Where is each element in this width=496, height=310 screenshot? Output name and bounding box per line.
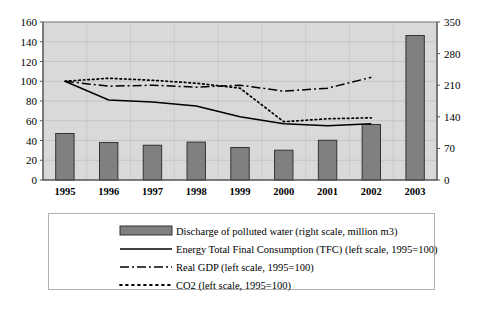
legend-swatch-bar <box>120 226 172 235</box>
left-tick-label: 100 <box>21 75 38 87</box>
left-axis-ticks: 020406080100120140160 <box>21 16 44 186</box>
x-axis-label: 1997 <box>142 186 163 197</box>
right-axis-ticks: 070140210280350 <box>437 16 461 186</box>
x-axis-label: 2003 <box>405 186 426 197</box>
right-tick-label: 0 <box>444 174 450 186</box>
bar <box>318 140 336 180</box>
chart-figure: 020406080100120140160 070140210280350 19… <box>0 0 496 310</box>
bar <box>99 143 117 180</box>
bar <box>231 147 249 180</box>
bar <box>56 134 74 180</box>
bar <box>143 145 161 180</box>
right-tick-label: 350 <box>444 16 461 28</box>
left-tick-label: 40 <box>26 135 38 147</box>
right-tick-label: 280 <box>444 48 461 60</box>
x-axis-label: 1998 <box>186 186 207 197</box>
right-tick-label: 70 <box>444 142 456 154</box>
x-axis-label: 1995 <box>54 186 75 197</box>
left-tick-label: 80 <box>26 95 38 107</box>
left-tick-label: 20 <box>26 154 38 166</box>
bar <box>275 150 293 180</box>
right-tick-label: 140 <box>444 111 461 123</box>
legend-item-label: Real GDP (left scale, 1995=100) <box>176 262 314 274</box>
x-axis-label: 2000 <box>273 186 294 197</box>
x-axis-category-labels: 199519961997199819992000200120022003 <box>54 186 425 197</box>
left-tick-label: 120 <box>21 56 38 68</box>
bar <box>362 124 380 180</box>
bar <box>187 142 205 180</box>
left-tick-label: 140 <box>21 36 38 48</box>
chart-svg: 020406080100120140160 070140210280350 19… <box>0 0 496 310</box>
left-tick-label: 160 <box>21 16 38 28</box>
right-tick-label: 210 <box>444 79 461 91</box>
legend-item-label: Energy Total Final Consumption (TFC) (le… <box>176 244 438 256</box>
x-axis-label: 1999 <box>230 186 251 197</box>
bar <box>406 36 424 180</box>
x-axis-label: 2001 <box>317 186 338 197</box>
legend-item-label: Discharge of polluted water (right scale… <box>176 226 398 238</box>
legend-item-label: CO2 (left scale, 1995=100) <box>176 280 291 292</box>
x-axis-label: 2002 <box>361 186 382 197</box>
x-axis-label: 1996 <box>98 186 119 197</box>
left-tick-label: 60 <box>26 115 38 127</box>
left-tick-label: 0 <box>32 174 38 186</box>
